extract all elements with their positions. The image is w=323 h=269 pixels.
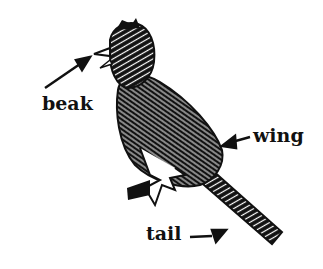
label-wing: wing xyxy=(253,124,304,146)
branch xyxy=(127,180,150,200)
label-tail: tail xyxy=(146,222,182,244)
bird-head xyxy=(110,23,154,88)
tail-arrow xyxy=(190,230,226,242)
label-beak: beak xyxy=(42,92,93,114)
bird-beak xyxy=(94,48,110,56)
beak-arrow xyxy=(45,57,90,88)
wing-arrow xyxy=(222,136,250,148)
bird-crest xyxy=(116,18,140,30)
